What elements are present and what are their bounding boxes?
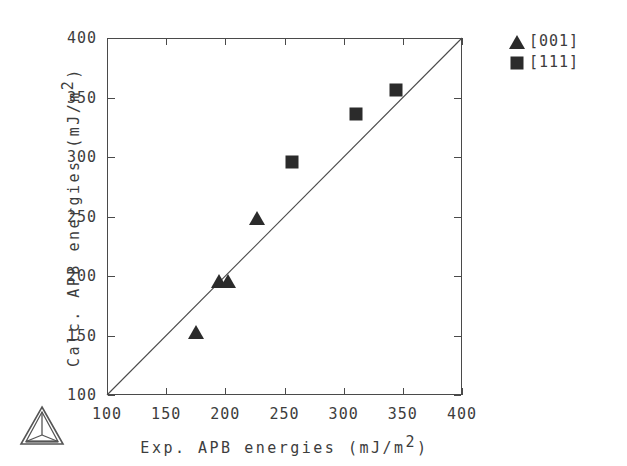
legend-item-label: [111] bbox=[529, 53, 579, 71]
x-tick-label: 250 bbox=[269, 405, 299, 423]
data-point-001 bbox=[188, 325, 204, 339]
y-axis-title-text: Calc. APB energies (mJ/m bbox=[65, 90, 83, 367]
square-marker-icon bbox=[508, 52, 526, 72]
x-tick-top bbox=[462, 38, 463, 45]
y-tick-label: 100 bbox=[39, 386, 97, 404]
x-tick bbox=[462, 388, 463, 395]
x-tick-label: 150 bbox=[151, 405, 181, 423]
legend-item-001[interactable]: [001] bbox=[508, 30, 579, 51]
x-tick-label: 400 bbox=[447, 405, 477, 423]
triangle-marker-icon bbox=[508, 31, 526, 51]
data-point-001 bbox=[220, 274, 236, 288]
data-point-111 bbox=[349, 108, 362, 121]
x-tick-label: 100 bbox=[92, 405, 122, 423]
x-tick-label: 350 bbox=[388, 405, 418, 423]
triangular-pyramid-logo bbox=[18, 404, 66, 448]
x-axis-title-tail: ) bbox=[417, 439, 429, 457]
y-tick-label: 400 bbox=[39, 29, 97, 47]
chart-page: 100150200250300350400 100150200250300350… bbox=[0, 0, 627, 466]
legend-item-label: [001] bbox=[529, 32, 579, 50]
y-tick-right bbox=[454, 395, 461, 396]
y-tick bbox=[108, 395, 115, 396]
plot-area bbox=[107, 38, 462, 395]
y-axis-title-tail: ) bbox=[65, 67, 83, 79]
x-tick-label: 200 bbox=[210, 405, 240, 423]
y-axis-title-superscript: 2 bbox=[59, 79, 77, 91]
x-axis-title-text: Exp. APB energies (mJ/m bbox=[140, 439, 405, 457]
x-axis-title: Exp. APB energies (mJ/m2) bbox=[107, 433, 462, 457]
x-tick-label: 300 bbox=[329, 405, 359, 423]
data-point-111 bbox=[285, 155, 298, 168]
y-axis-title: Calc. APB energies (mJ/m2) bbox=[59, 52, 83, 382]
data-point-001 bbox=[249, 211, 265, 225]
reference-line bbox=[107, 38, 462, 395]
data-point-111 bbox=[389, 84, 402, 97]
x-axis-title-superscript: 2 bbox=[406, 433, 418, 451]
legend: [001][111] bbox=[508, 30, 579, 72]
legend-item-111[interactable]: [111] bbox=[508, 51, 579, 72]
